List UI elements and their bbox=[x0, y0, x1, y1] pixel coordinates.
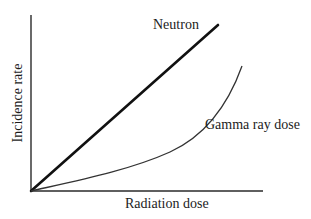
gamma-series-label: Gamma ray dose bbox=[205, 117, 300, 133]
neutron-series-label: Neutron bbox=[153, 17, 199, 33]
x-axis-label: Radiation dose bbox=[125, 196, 209, 212]
y-axis-label: Incidence rate bbox=[10, 64, 26, 143]
neutron-line bbox=[31, 25, 218, 191]
